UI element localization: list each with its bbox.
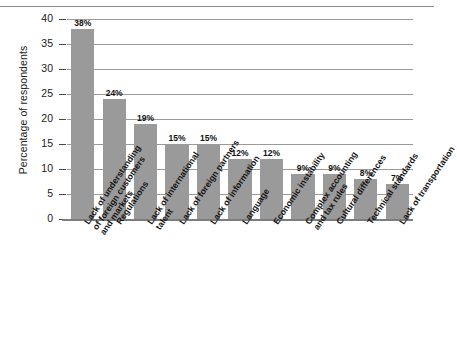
y-tick-mark xyxy=(59,169,66,170)
y-tick-mark xyxy=(59,144,66,145)
bar[interactable] xyxy=(71,29,94,219)
bar-value-label: 15% xyxy=(197,133,220,143)
y-tick-label: 30 xyxy=(31,62,53,74)
y-tick-mark xyxy=(59,119,66,120)
bar-value-label: 24% xyxy=(103,88,126,98)
y-tick-label: 25 xyxy=(31,87,53,99)
bar-value-label: 12% xyxy=(260,148,283,158)
y-tick-label: 15 xyxy=(31,137,53,149)
bar-value-label: 19% xyxy=(134,113,157,123)
y-tick-mark xyxy=(59,69,66,70)
bar-item[interactable]: 38% xyxy=(71,19,94,219)
y-tick-label: 5 xyxy=(31,187,53,199)
y-tick-label: 10 xyxy=(31,162,53,174)
y-tick-label: 20 xyxy=(31,112,53,124)
y-tick-mark xyxy=(59,19,66,20)
top-divider xyxy=(0,6,434,7)
y-tick-label: 40 xyxy=(31,12,53,24)
y-tick-mark xyxy=(59,194,66,195)
y-tick-mark xyxy=(59,44,66,45)
x-axis-labels: Lack of understandingof foreign customer… xyxy=(67,221,413,342)
bar-value-label: 15% xyxy=(165,133,188,143)
y-tick-label: 0 xyxy=(31,212,53,224)
y-tick-mark xyxy=(59,94,66,95)
y-tick-label: 35 xyxy=(31,37,53,49)
y-axis-title: Percentage of respondents xyxy=(17,10,29,210)
bar-value-label: 38% xyxy=(71,18,94,28)
